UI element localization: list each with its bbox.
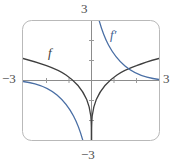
plot-area	[0, 0, 176, 164]
figure-container: 3 −3 3 −3 f f′	[0, 0, 176, 164]
curve-f-prime-label: f′	[110, 28, 116, 41]
x-axis-min-label: −3	[2, 72, 16, 85]
y-axis-max-label: 3	[81, 2, 88, 15]
curve-f-label: f	[48, 46, 52, 59]
y-axis-min-label: −3	[81, 148, 95, 161]
x-axis-max-label: 3	[163, 72, 170, 85]
